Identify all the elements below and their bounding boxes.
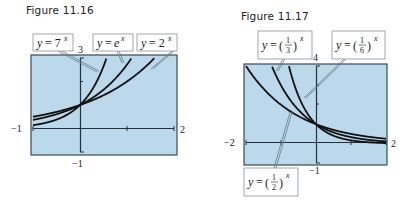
svg-text:6: 6 [360, 46, 364, 55]
svg-text:y: y [96, 36, 103, 50]
svg-text:): ) [293, 39, 297, 53]
svg-text:1: 1 [360, 36, 364, 45]
svg-text:y: y [261, 38, 268, 52]
charts-canvas: −1 2 3 −1 y = 7 x y = e x y = 2 x [0, 0, 413, 203]
svg-text:y: y [36, 36, 43, 50]
svg-text:=: = [256, 175, 263, 189]
svg-text:x: x [167, 34, 172, 43]
label-ex: y = e x [93, 34, 133, 51]
svg-text:(: ( [353, 39, 357, 53]
label-one-third-x: y = ( 1 3 ) x [258, 31, 312, 59]
svg-text:3: 3 [286, 46, 290, 55]
label-2x: y = 2 x [137, 34, 177, 51]
svg-text:x: x [120, 34, 125, 43]
x-max-label: 2 [391, 138, 396, 149]
svg-text:x: x [63, 34, 68, 43]
y-min-label: −1 [72, 158, 83, 169]
svg-text:=: = [105, 36, 112, 50]
label-7x: y = 7 x [33, 34, 73, 51]
svg-text:y: y [335, 38, 342, 52]
svg-text:= 7: = 7 [45, 36, 61, 50]
svg-text:=: = [270, 38, 277, 52]
svg-text:): ) [367, 39, 371, 53]
plot-area [31, 55, 177, 155]
svg-text:2: 2 [272, 183, 276, 192]
y-max-label: 3 [78, 44, 83, 55]
label-one-sixth-x: y = ( 1 6 ) x [332, 31, 385, 59]
svg-text:): ) [279, 176, 283, 190]
x-min-label: −1 [11, 123, 22, 134]
svg-text:y: y [140, 36, 147, 50]
svg-text:e: e [114, 36, 120, 50]
svg-text:y: y [247, 175, 254, 189]
svg-text:1: 1 [272, 173, 276, 182]
chart-figure-11-17: −2 2 4 −1 y = ( 1 3 ) x y = ( 1 6 ) [224, 31, 396, 196]
svg-text:= 2: = 2 [149, 36, 165, 50]
y-min-label: −1 [309, 165, 320, 176]
svg-text:x: x [299, 34, 304, 43]
svg-text:1: 1 [286, 36, 290, 45]
svg-text:(: ( [279, 39, 283, 53]
plot-area [244, 64, 387, 165]
chart-figure-11-16: −1 2 3 −1 y = 7 x y = e x y = 2 x [11, 34, 185, 169]
y-max-label: 4 [313, 52, 318, 63]
svg-text:=: = [344, 38, 351, 52]
svg-text:(: ( [265, 176, 269, 190]
x-min-label: −2 [224, 137, 235, 148]
svg-text:x: x [373, 34, 378, 43]
x-max-label: 2 [180, 124, 185, 135]
svg-text:x: x [285, 171, 290, 180]
label-one-half-x: y = ( 1 2 ) x [244, 168, 298, 196]
